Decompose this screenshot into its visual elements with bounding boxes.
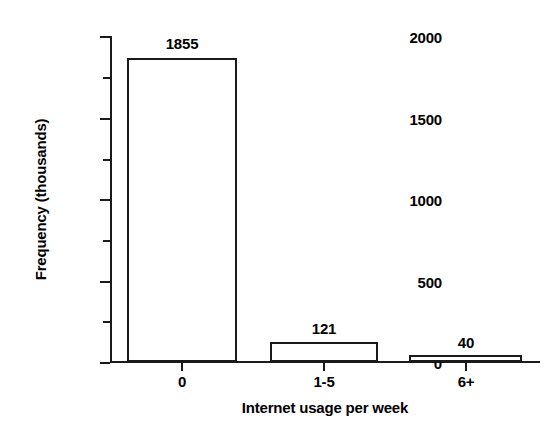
- y-tick-1000: [100, 199, 110, 201]
- y-axis-line: [110, 36, 112, 363]
- y-tick-label-2000: 2000: [409, 30, 442, 45]
- y-tick-2000: [100, 36, 110, 38]
- x-tick-label-1-5: 1-5: [313, 374, 334, 389]
- x-tick-0: [181, 363, 183, 371]
- x-tick-label-6-plus: 6+: [458, 374, 475, 389]
- y-tick-750: [103, 240, 110, 242]
- x-tick-1-5: [323, 363, 325, 371]
- x-tick-label-0: 0: [178, 374, 186, 389]
- y-tick-250: [103, 321, 110, 323]
- y-tick-label-500: 500: [418, 275, 442, 290]
- bar-0: [127, 58, 237, 362]
- y-tick-0: [100, 362, 110, 364]
- y-tick-500: [100, 281, 110, 283]
- bar-6-plus: [409, 355, 522, 362]
- bar-1-5: [270, 342, 378, 362]
- y-tick-label-1000: 1000: [409, 193, 442, 208]
- y-tick-1500: [100, 118, 110, 120]
- bar-chart: 2000 1500 1000 500 0 1855 121 40 0 1-5 6…: [0, 0, 558, 435]
- y-tick-1250: [103, 159, 110, 161]
- bar-value-6-plus: 40: [458, 335, 474, 350]
- x-axis-title: Internet usage per week: [110, 400, 540, 415]
- x-tick-6-plus: [465, 363, 467, 371]
- y-tick-label-1500: 1500: [409, 112, 442, 127]
- y-axis-ticks: [0, 0, 110, 435]
- bar-value-1-5: 121: [312, 321, 336, 336]
- y-tick-1750: [103, 77, 110, 79]
- bar-value-0: 1855: [166, 36, 199, 51]
- y-axis-title: Frequency (thousands): [30, 36, 52, 363]
